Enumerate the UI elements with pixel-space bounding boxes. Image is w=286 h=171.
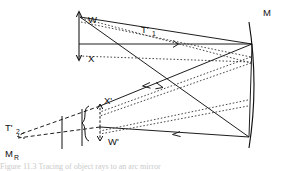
label-w-prime: W' xyxy=(108,136,119,147)
label-x-prime: X' xyxy=(104,95,112,106)
label-w: W xyxy=(88,14,97,25)
label-t1-sub: 1 xyxy=(152,30,156,37)
figure-caption: Figure 11.3 Tracing of object rays to an… xyxy=(0,162,286,171)
label-t1-base: T' xyxy=(141,24,149,35)
optical-ray-diagram: W X T' 1 M X' W' T' 2 M R xyxy=(0,0,286,171)
figure-root: W X T' 1 M X' W' T' 2 M R Figure 11.3 Tr… xyxy=(0,0,286,171)
label-m: M xyxy=(263,7,271,18)
label-t2-base: T' xyxy=(5,122,13,133)
label-mr-base: M xyxy=(5,148,13,159)
label-t2-sub: 2 xyxy=(16,128,20,135)
label-mr-sub: R xyxy=(14,154,19,161)
label-x: X xyxy=(88,53,95,64)
